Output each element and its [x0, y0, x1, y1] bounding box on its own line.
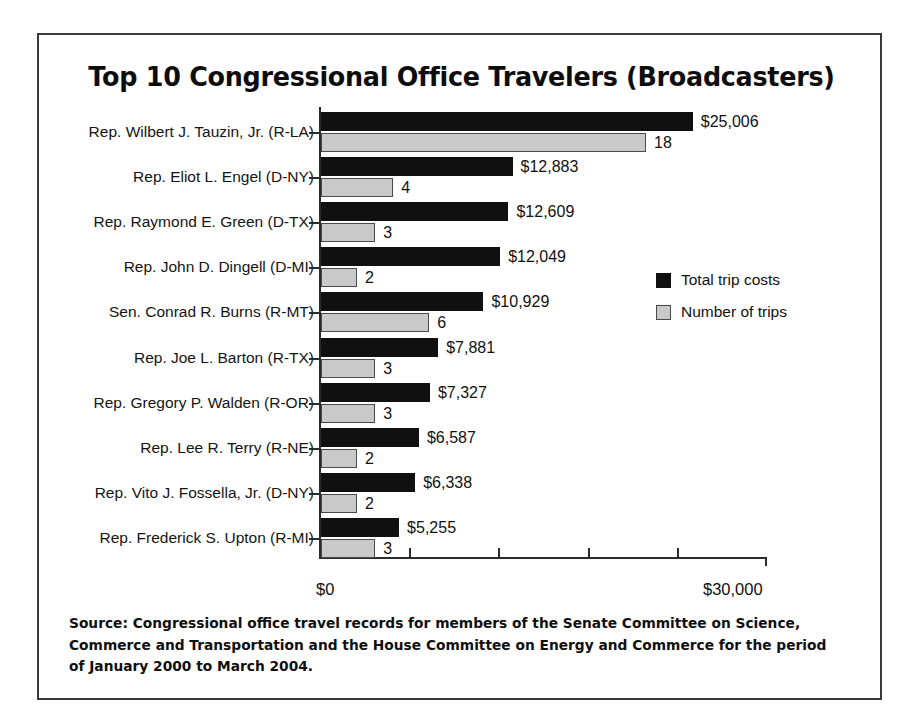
category-tick	[309, 177, 320, 179]
category-tick	[309, 358, 320, 360]
x-axis-tick	[498, 548, 500, 558]
category-label: Rep. Gregory P. Walden (R-OR)	[54, 395, 314, 411]
bar-value-number-of-trips: 3	[383, 223, 392, 242]
x-axis-min-label: $0	[316, 580, 334, 599]
bar-number-of-trips	[321, 268, 357, 287]
bar-total-trip-costs	[321, 292, 483, 311]
legend-item-number-of-trips: Number of trips	[656, 299, 787, 325]
bar-number-of-trips	[321, 404, 375, 423]
category-label: Rep. Frederick S. Upton (R-MI)	[54, 530, 314, 546]
bar-total-trip-costs	[321, 383, 430, 402]
x-axis-max-label: $30,000	[703, 580, 763, 599]
bar-total-trip-costs	[321, 518, 399, 537]
bar-value-number-of-trips: 4	[401, 178, 410, 197]
category-label: Rep. Wilbert J. Tauzin, Jr. (R-LA)	[54, 124, 314, 140]
bar-number-of-trips	[321, 133, 646, 152]
bar-value-number-of-trips: 6	[437, 313, 446, 332]
bar-number-of-trips	[321, 178, 393, 197]
legend-label-total-trip-costs: Total trip costs	[681, 271, 780, 289]
source-note: Source: Congressional office travel reco…	[69, 613, 835, 678]
legend-swatch-number-of-trips	[656, 305, 671, 320]
bar-value-number-of-trips: 2	[365, 268, 374, 287]
x-axis-endcap	[765, 557, 767, 566]
chart-figure: Top 10 Congressional Office Travelers (B…	[37, 33, 882, 700]
bar-total-trip-costs	[321, 202, 508, 221]
category-label: Rep. Lee R. Terry (R-NE)	[54, 440, 314, 456]
bar-value-number-of-trips: 18	[654, 133, 672, 152]
bar-total-trip-costs	[321, 157, 513, 176]
bar-number-of-trips	[321, 494, 357, 513]
category-label: Rep. Joe L. Barton (R-TX)	[54, 350, 314, 366]
category-tick	[309, 132, 320, 134]
category-label: Rep. Raymond E. Green (D-TX)	[54, 214, 314, 230]
category-label: Rep. John D. Dingell (D-MI)	[54, 259, 314, 275]
bar-value-total-trip-costs: $5,255	[407, 518, 456, 537]
category-tick	[309, 312, 320, 314]
bar-value-total-trip-costs: $12,609	[516, 202, 574, 221]
bar-total-trip-costs	[321, 428, 419, 447]
bar-value-number-of-trips: 2	[365, 494, 374, 513]
bar-value-total-trip-costs: $6,338	[423, 473, 472, 492]
bar-value-number-of-trips: 2	[365, 449, 374, 468]
bar-number-of-trips	[321, 359, 375, 378]
bar-total-trip-costs	[321, 112, 693, 131]
bar-value-total-trip-costs: $7,327	[438, 383, 487, 402]
chart-legend: Total trip costs Number of trips	[656, 267, 787, 331]
bar-number-of-trips	[321, 313, 429, 332]
category-tick	[309, 493, 320, 495]
bar-number-of-trips	[321, 449, 357, 468]
bar-value-number-of-trips: 3	[383, 539, 392, 558]
plot-area: Rep. Wilbert J. Tauzin, Jr. (R-LA)$25,00…	[39, 107, 884, 577]
bar-value-total-trip-costs: $25,006	[701, 112, 759, 131]
category-tick	[309, 222, 320, 224]
legend-item-total-trip-costs: Total trip costs	[656, 267, 787, 293]
bar-value-number-of-trips: 3	[383, 359, 392, 378]
x-axis-tick	[588, 548, 590, 558]
category-label: Rep. Eliot L. Engel (D-NY)	[54, 169, 314, 185]
category-tick	[309, 267, 320, 269]
bar-value-total-trip-costs: $12,049	[508, 247, 566, 266]
legend-label-number-of-trips: Number of trips	[681, 303, 787, 321]
bar-value-total-trip-costs: $12,883	[521, 157, 579, 176]
x-axis-tick	[409, 548, 411, 558]
category-tick	[309, 403, 320, 405]
legend-swatch-total-trip-costs	[656, 273, 671, 288]
bar-total-trip-costs	[321, 247, 500, 266]
bar-value-total-trip-costs: $7,881	[446, 338, 495, 357]
category-tick	[309, 538, 320, 540]
chart-title: Top 10 Congressional Office Travelers (B…	[56, 61, 867, 92]
bar-total-trip-costs	[321, 338, 438, 357]
bar-value-number-of-trips: 3	[383, 404, 392, 423]
x-axis-tick	[677, 548, 679, 558]
bar-number-of-trips	[321, 539, 375, 558]
bar-value-total-trip-costs: $6,587	[427, 428, 476, 447]
bar-value-total-trip-costs: $10,929	[491, 292, 549, 311]
bar-number-of-trips	[321, 223, 375, 242]
bar-total-trip-costs	[321, 473, 415, 492]
category-tick	[309, 448, 320, 450]
category-label: Rep. Vito J. Fossella, Jr. (D-NY)	[54, 485, 314, 501]
category-label: Sen. Conrad R. Burns (R-MT)	[54, 304, 314, 320]
